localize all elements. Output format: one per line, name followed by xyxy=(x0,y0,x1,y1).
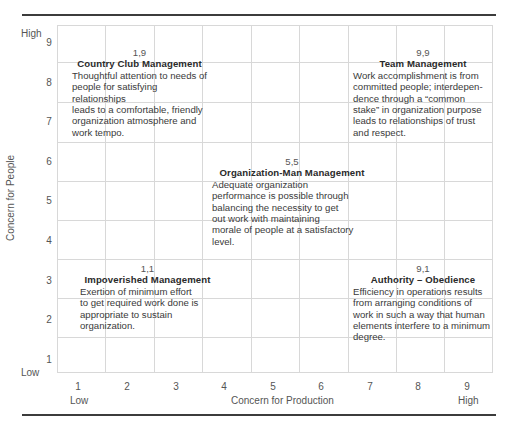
x-tick: 4 xyxy=(217,381,231,392)
style-coord: 5,5 xyxy=(212,156,372,167)
y-tick: 7 xyxy=(44,116,54,127)
x-tick: 6 xyxy=(314,381,328,392)
y-axis-high-label: High xyxy=(21,28,42,39)
style-title: Team Management xyxy=(353,58,493,69)
x-tick: 7 xyxy=(363,381,377,392)
style-description: Thoughtful attention to needs of people … xyxy=(72,70,207,138)
grid-hline xyxy=(58,259,492,260)
y-tick: 1 xyxy=(44,354,54,365)
style-title: Impoverished Management xyxy=(80,274,215,285)
style-description: Exertion of minimum effort to get requir… xyxy=(80,286,215,332)
x-tick: 2 xyxy=(120,381,134,392)
style-team: 9,9 Team Management Work accomplishment … xyxy=(353,47,493,138)
y-axis-low-label: Low xyxy=(21,367,39,378)
x-axis-high-label: High xyxy=(458,395,479,406)
y-tick: 8 xyxy=(44,77,54,88)
x-tick: 3 xyxy=(169,381,183,392)
top-rule xyxy=(22,14,496,16)
style-organization-man: 5,5 Organization-Man Management Adequate… xyxy=(212,156,372,247)
y-tick: 9 xyxy=(44,37,54,48)
y-axis-label: Concern for People xyxy=(5,155,16,241)
style-title: Organization-Man Management xyxy=(212,167,372,178)
x-tick: 1 xyxy=(71,381,85,392)
y-tick: 4 xyxy=(44,235,54,246)
bottom-rule xyxy=(22,414,496,416)
y-tick: 3 xyxy=(44,275,54,286)
style-coord: 1,1 xyxy=(80,263,215,274)
y-tick: 5 xyxy=(44,195,54,206)
x-tick: 9 xyxy=(460,381,474,392)
y-tick: 6 xyxy=(44,156,54,167)
x-tick: 5 xyxy=(266,381,280,392)
x-axis-low-label: Low xyxy=(70,395,88,406)
style-description: Efficiency in operations results from ar… xyxy=(353,286,493,343)
x-axis-label: Concern for Production xyxy=(231,395,334,406)
x-tick: 8 xyxy=(411,381,425,392)
grid-hline xyxy=(58,142,492,143)
y-tick: 2 xyxy=(44,314,54,325)
style-authority-obedience: 9,1 Authority – Obedience Efficiency in … xyxy=(353,263,493,343)
style-title: Authority – Obedience xyxy=(353,274,493,285)
style-country-club: 1,9 Country Club Management Thoughtful a… xyxy=(72,47,207,138)
style-coord: 1,9 xyxy=(72,47,207,58)
style-coord: 9,1 xyxy=(353,263,493,274)
style-description: Work accomplishment is from committed pe… xyxy=(353,70,493,138)
style-impoverished: 1,1 Impoverished Management Exertion of … xyxy=(80,263,215,331)
style-description: Adequate organization performance is pos… xyxy=(212,179,372,247)
style-coord: 9,9 xyxy=(353,47,493,58)
style-title: Country Club Management xyxy=(72,58,207,69)
